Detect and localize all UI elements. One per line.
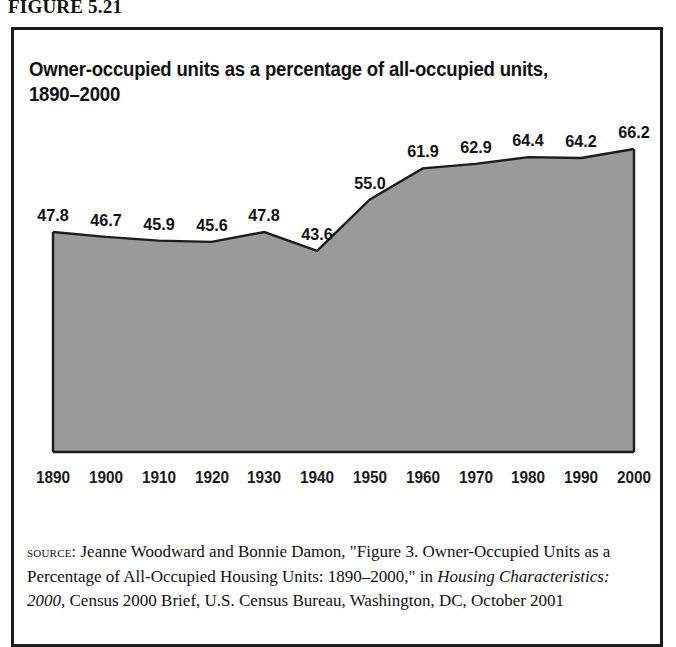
x-tick-label-2000: 2000 bbox=[617, 468, 651, 487]
value-label-1930: 47.8 bbox=[249, 206, 280, 226]
x-tick-label-1940: 1940 bbox=[300, 468, 334, 487]
value-label-1940: 43.6 bbox=[301, 225, 332, 245]
source-kicker: source: bbox=[27, 543, 76, 560]
x-axis-tick-labels: 1890190019101920193019401950196019701980… bbox=[0, 468, 676, 494]
value-label-1960: 61.9 bbox=[407, 142, 438, 162]
chart-title: Owner-occupied units as a percentage of … bbox=[29, 57, 590, 107]
x-tick-label-1990: 1990 bbox=[564, 468, 598, 487]
source-text-part-2: Census 2000 Brief, U.S. Census Bureau, W… bbox=[65, 591, 564, 610]
value-label-1980: 64.4 bbox=[513, 131, 544, 151]
value-label-1910: 45.9 bbox=[143, 215, 174, 235]
chart-plot-area: 47.846.745.945.647.843.655.061.962.964.4… bbox=[11, 120, 663, 470]
figure-label: FIGURE 5.21 bbox=[8, 0, 122, 18]
x-tick-label-1910: 1910 bbox=[142, 468, 176, 487]
x-tick-label-1970: 1970 bbox=[458, 468, 492, 487]
area-chart-svg bbox=[11, 120, 663, 470]
x-tick-label-1930: 1930 bbox=[247, 468, 281, 487]
x-tick-label-1950: 1950 bbox=[353, 468, 387, 487]
value-label-1900: 46.7 bbox=[90, 211, 121, 231]
x-tick-label-1980: 1980 bbox=[511, 468, 545, 487]
value-label-1950: 55.0 bbox=[354, 174, 385, 194]
source-note: source: Jeanne Woodward and Bonnie Damon… bbox=[27, 540, 642, 614]
x-tick-label-1900: 1900 bbox=[89, 468, 123, 487]
value-label-1890: 47.8 bbox=[37, 206, 68, 226]
value-label-2000: 66.2 bbox=[618, 123, 649, 143]
area-series-owner-occupied bbox=[53, 149, 634, 452]
chart-title-line-1: Owner-occupied units as a percentage of … bbox=[29, 57, 590, 82]
value-label-1970: 62.9 bbox=[460, 138, 491, 158]
value-label-1990: 64.2 bbox=[565, 132, 596, 152]
x-tick-label-1890: 1890 bbox=[36, 468, 70, 487]
x-tick-label-1960: 1960 bbox=[406, 468, 440, 487]
x-tick-label-1920: 1920 bbox=[194, 468, 228, 487]
value-label-1920: 45.6 bbox=[196, 216, 227, 236]
chart-title-line-2: 1890–2000 bbox=[29, 82, 590, 107]
